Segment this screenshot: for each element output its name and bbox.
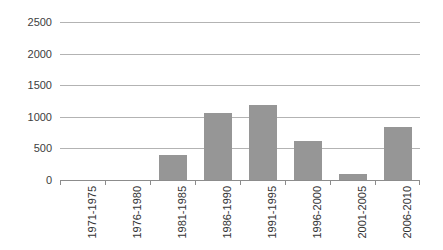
y-tick-label: 2000 [0,48,52,59]
x-tick-label: 1976-1980 [132,186,143,239]
x-tick-label: 2006-2010 [402,186,413,239]
bar[interactable] [249,105,277,180]
y-tick-label: 500 [0,143,52,154]
x-tick-label: 2001-2005 [357,186,368,239]
x-tick-label: 1986-1990 [222,186,233,239]
bar-slot [330,22,375,180]
bars-layer [60,22,420,180]
x-tick-label-slot: 1981-1985 [150,186,195,248]
bar-slot [105,22,150,180]
x-tick-label-slot: 2001-2005 [330,186,375,248]
bar-slot [150,22,195,180]
x-tick-label-slot: 1996-2000 [285,186,330,248]
x-tick-mark [105,180,106,185]
y-tick-label: 2500 [0,17,52,28]
x-tick-label-slot: 2006-2010 [375,186,420,248]
x-tick-mark [330,180,331,185]
x-tick-label-slot: 1971-1975 [60,186,105,248]
x-tick-label: 1996-2000 [312,186,323,239]
x-tick-label: 1981-1985 [177,186,188,239]
bar-slot [285,22,330,180]
x-tick-label-slot: 1976-1980 [105,186,150,248]
x-axis: 1971-19751976-19801981-19851986-19901991… [60,186,420,248]
x-tick-mark [150,180,151,185]
bar[interactable] [204,113,232,180]
y-tick-label: 1500 [0,80,52,91]
bar-slot [60,22,105,180]
x-tick-label: 1971-1975 [87,186,98,239]
x-tick-mark [375,180,376,185]
x-tick-label: 1991-1995 [267,186,278,239]
bar-slot [375,22,420,180]
bar[interactable] [384,127,412,180]
bar[interactable] [159,155,187,180]
x-tick-mark [285,180,286,185]
bar-slot [240,22,285,180]
x-tick-mark [240,180,241,185]
bar-chart: 05001000150020002500 1971-19751976-19801… [0,0,443,250]
x-tick-mark [60,180,61,185]
x-tick-mark [419,180,420,185]
bar[interactable] [294,141,322,180]
y-tick-label: 0 [0,175,52,186]
y-tick-label: 1000 [0,111,52,122]
y-axis: 05001000150020002500 [0,22,52,180]
bar-slot [195,22,240,180]
x-tick-mark [195,180,196,185]
x-tick-label-slot: 1991-1995 [240,186,285,248]
x-axis-ticks [60,180,420,185]
x-tick-label-slot: 1986-1990 [195,186,240,248]
